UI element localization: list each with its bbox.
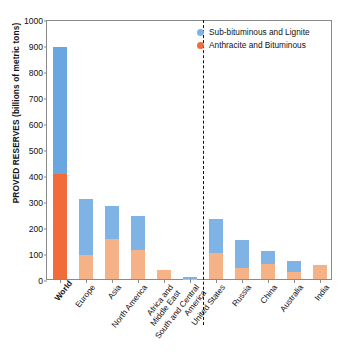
x-label-line: World: [53, 279, 74, 303]
x-label-line: China: [259, 283, 279, 305]
bar-segment-anthracite-bituminous: [157, 270, 172, 279]
legend-swatch-icon: [197, 42, 204, 49]
y-tick-label: 1000: [3, 16, 47, 26]
x-axis-labels: WorldEuropeAsiaNorth AmericaAfrica andMi…: [46, 283, 332, 361]
x-label-line: Russia: [231, 283, 254, 308]
bar-segment-anthracite-bituminous: [287, 272, 302, 279]
bar-segment-anthracite-bituminous: [261, 264, 276, 279]
bar-segment-subbituminous-lignite: [105, 206, 120, 240]
bar-asia[interactable]: [105, 21, 120, 279]
bar-united-states[interactable]: [209, 21, 224, 279]
bar-segment-anthracite-bituminous: [53, 174, 68, 279]
x-label-line: Europe: [74, 283, 97, 309]
legend-swatch-icon: [197, 29, 204, 36]
bar-segment-subbituminous-lignite: [79, 199, 94, 255]
y-tick-label: 500: [3, 146, 47, 156]
x-label-asia: Asia: [73, 283, 123, 344]
y-tick-label: 700: [3, 94, 47, 104]
bar-segment-subbituminous-lignite: [261, 251, 276, 263]
bar-segment-anthracite-bituminous: [105, 239, 120, 279]
legend-item-0[interactable]: Sub-bituminous and Lignite: [197, 27, 310, 37]
x-label-line: India: [313, 283, 331, 303]
plot-area: 01002003004005006007008009001000: [46, 20, 332, 280]
bar-australia[interactable]: [287, 21, 302, 279]
y-tick-label: 900: [3, 42, 47, 52]
y-tick-label: 0: [3, 276, 47, 286]
bar-india[interactable]: [313, 21, 328, 279]
x-label-line: Asia: [106, 283, 123, 301]
bar-segment-anthracite-bituminous: [131, 250, 146, 279]
bar-segment-anthracite-bituminous: [313, 265, 328, 279]
legend-label: Anthracite and Bituminous: [209, 40, 306, 50]
bar-segment-subbituminous-lignite: [209, 219, 224, 253]
bar-world[interactable]: [53, 21, 68, 279]
bar-segment-subbituminous-lignite: [131, 216, 146, 250]
bar-north-america[interactable]: [131, 21, 146, 279]
bar-russia[interactable]: [235, 21, 250, 279]
bar-segment-anthracite-bituminous: [79, 255, 94, 279]
x-label-world: World: [53, 283, 71, 303]
y-tick-label: 200: [3, 224, 47, 234]
y-tick-label: 400: [3, 172, 47, 182]
legend-label: Sub-bituminous and Lignite: [209, 27, 310, 37]
y-tick-label: 100: [3, 250, 47, 260]
x-label-line: Australia: [278, 283, 305, 314]
legend-item-1[interactable]: Anthracite and Bituminous: [197, 40, 310, 50]
y-tick-label: 600: [3, 120, 47, 130]
bar-south-and-central-america[interactable]: [183, 21, 198, 279]
bar-segment-anthracite-bituminous: [209, 253, 224, 279]
coal-reserves-chart: PROVED RESERVES (billions of metric tons…: [0, 0, 340, 361]
bar-africa-and-middle-east[interactable]: [157, 21, 172, 279]
y-tick-label: 300: [3, 198, 47, 208]
bar-segment-anthracite-bituminous: [235, 268, 250, 279]
region-country-divider: [203, 20, 204, 325]
bar-europe[interactable]: [79, 21, 94, 279]
bars-layer: [47, 21, 331, 279]
chart-legend: Sub-bituminous and LigniteAnthracite and…: [197, 27, 310, 53]
y-tick-label: 800: [3, 68, 47, 78]
bar-segment-subbituminous-lignite: [53, 47, 68, 174]
bar-china[interactable]: [261, 21, 276, 279]
bar-segment-subbituminous-lignite: [287, 261, 302, 272]
bar-segment-subbituminous-lignite: [235, 240, 250, 268]
